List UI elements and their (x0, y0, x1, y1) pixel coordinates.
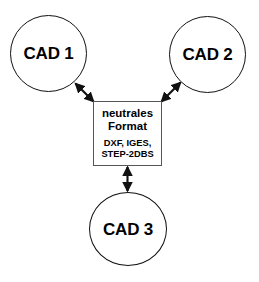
connector-cad1-hub (76, 84, 94, 102)
neutral-format-subtitle-line-2: STEP-2DBS (101, 149, 153, 160)
node-cad-3: CAD 3 (89, 192, 167, 266)
node-cad-2-label: CAD 2 (182, 46, 232, 63)
node-cad-1-label: CAD 1 (23, 45, 73, 62)
node-cad-2: CAD 2 (169, 16, 246, 93)
diagram-canvas: CAD 1 CAD 2 CAD 3 neutrales Format DXF, … (0, 0, 259, 282)
neutral-format-box: neutrales Format DXF, IGES, STEP-2DBS (93, 101, 162, 166)
node-cad-3-label: CAD 3 (103, 221, 153, 238)
neutral-format-subtitle-line-1: DXF, IGES, (101, 138, 153, 149)
neutral-format-title-line-2: Format (108, 120, 147, 134)
node-cad-1: CAD 1 (10, 15, 87, 92)
connector-cad2-hub (162, 83, 181, 102)
neutral-format-subtitle: DXF, IGES, STEP-2DBS (101, 138, 153, 161)
neutral-format-title-line-1: neutrales (102, 107, 153, 121)
